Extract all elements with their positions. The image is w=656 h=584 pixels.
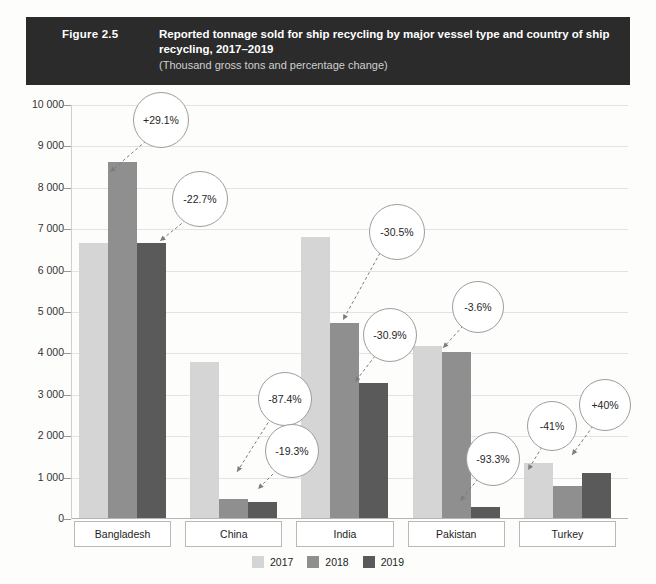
leader-arrowhead xyxy=(528,464,533,470)
legend-item-2017: 2017 xyxy=(252,556,293,568)
leader-line xyxy=(343,253,380,320)
callout-227: -22.7% xyxy=(172,171,228,227)
callout-36: -3.6% xyxy=(452,281,504,333)
legend-item-2018: 2018 xyxy=(307,556,348,568)
leader-arrowhead xyxy=(355,376,360,382)
callout-40: +40% xyxy=(579,379,631,431)
callout-305: -30.5% xyxy=(369,204,425,260)
callout-933: -93.3% xyxy=(466,432,520,486)
callout-291: +29.1% xyxy=(133,92,189,148)
callout-193: -19.3% xyxy=(265,424,319,478)
leader-arrowhead xyxy=(237,466,242,472)
leader-arrowhead xyxy=(258,483,264,489)
callout-874: -87.4% xyxy=(258,372,312,426)
leader-line xyxy=(110,141,146,172)
legend-label-2017: 2017 xyxy=(270,556,293,568)
callout-309: -30.9% xyxy=(363,308,417,362)
legend-swatch-2017 xyxy=(252,556,264,568)
leader-arrowhead xyxy=(572,449,577,455)
legend-swatch-2018 xyxy=(307,556,319,568)
leader-arrowhead xyxy=(343,314,348,320)
legend-label-2019: 2019 xyxy=(381,556,404,568)
figure-container: Figure 2.5 Reported tonnage sold for shi… xyxy=(0,0,656,584)
legend-label-2018: 2018 xyxy=(325,556,348,568)
callout-leader-lines xyxy=(0,0,656,584)
callout-41: -41% xyxy=(527,401,577,451)
leader-arrowhead xyxy=(460,495,465,501)
legend-swatch-2019 xyxy=(363,556,375,568)
leader-arrowhead xyxy=(160,236,166,241)
legend-item-2019: 2019 xyxy=(363,556,404,568)
chart-legend: 201720182019 xyxy=(0,556,656,568)
